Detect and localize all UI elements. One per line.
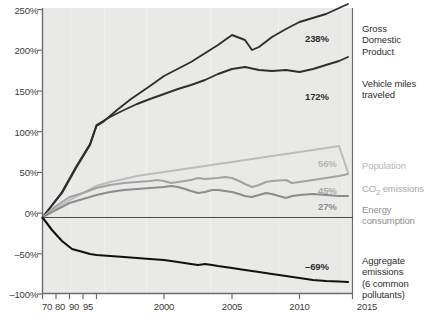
legend-item-gdp: Gross Domestic Product: [362, 23, 401, 57]
legend-item-aggregate: Aggregate emissions (6 common pollutants…: [362, 255, 409, 301]
legend-item-energy: Energy consumption: [362, 204, 415, 227]
x-tick-label: 70: [42, 301, 52, 312]
y-tick-label: 150%: [0, 86, 38, 97]
value-label-energy: 27%: [318, 201, 337, 212]
series-line-aggregate: [43, 218, 349, 283]
x-tick-marks: [43, 294, 353, 299]
legend-item-co2: CO2 emissions: [362, 183, 424, 198]
value-label-population: 56%: [318, 158, 337, 169]
value-label-aggregate: –69%: [305, 261, 329, 272]
series-line-vmt: [43, 57, 349, 218]
series-line-gdp: [43, 4, 349, 218]
y-tick-label: –100%: [0, 289, 38, 300]
y-tick-label: 250%: [0, 4, 38, 15]
legend-co2-prefix: CO: [362, 183, 376, 194]
y-tick-label: 50%: [0, 167, 38, 178]
y-axis-labels: 250% 200% 150% 100% 50% 0% –50% –100%: [0, 0, 38, 322]
y-tick-label: 200%: [0, 45, 38, 56]
x-tick-label: 2005: [222, 301, 242, 312]
chart-root: 250% 200% 150% 100% 50% 0% –50% –100% 70…: [0, 0, 430, 322]
y-tick-label: 100%: [0, 126, 38, 137]
x-tick-label: 80: [55, 301, 65, 312]
y-tick-label: –50%: [0, 248, 38, 259]
value-label-co2: 45%: [318, 185, 337, 196]
x-tick-label: 90: [69, 301, 79, 312]
value-label-vmt: 172%: [305, 91, 329, 102]
legend-item-population: Population: [362, 160, 406, 171]
y-tick-label: 0%: [0, 208, 38, 219]
x-tick-label: 2000: [154, 301, 174, 312]
x-tick-label: 2015: [357, 301, 377, 312]
x-tick-label: 2010: [289, 301, 309, 312]
value-label-gdp: 238%: [305, 33, 329, 44]
legend-item-vmt: Vehicle miles traveled: [362, 78, 416, 101]
x-tick-label: 95: [83, 301, 93, 312]
legend-co2-suffix: emissions: [380, 183, 424, 194]
